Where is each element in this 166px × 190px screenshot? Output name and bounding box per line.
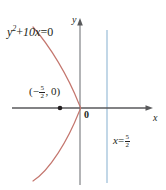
directrix-fraction: 52 — [125, 134, 131, 150]
directrix-equation-label: x=52 — [113, 134, 131, 150]
y-axis-arrowhead — [77, 18, 83, 26]
directrix-equals-sign: = — [118, 134, 124, 146]
equation-linear-term: 10x — [23, 25, 40, 39]
equation-right-hand-side: 0 — [47, 25, 53, 39]
x-axis-arrowhead — [146, 105, 154, 111]
point-marker — [58, 106, 63, 111]
y-axis-label: y — [72, 15, 76, 25]
point-fraction-denominator: 2 — [39, 92, 45, 100]
point-fraction-numerator: 5 — [39, 85, 45, 92]
parabola-curve — [33, 27, 81, 181]
parabola-figure: y2+10x=0 y x 0 (−52, 0) x=52 — [0, 0, 166, 190]
directrix-fraction-numerator: 5 — [125, 134, 131, 141]
curve-equation-label: y2+10x=0 — [7, 25, 53, 38]
point-close-paren: ) — [56, 85, 60, 97]
point-coordinate-label: (−52, 0) — [29, 85, 60, 101]
x-axis-label: x — [153, 113, 157, 123]
point-minus-sign: − — [33, 85, 39, 97]
origin-label: 0 — [84, 110, 89, 120]
directrix-fraction-denominator: 2 — [125, 141, 131, 149]
point-fraction: 52 — [39, 85, 45, 101]
